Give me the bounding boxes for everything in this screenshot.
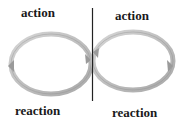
label-action-left: action: [21, 6, 55, 19]
action-reaction-diagram: action action reaction reaction: [0, 0, 188, 124]
label-reaction-right: reaction: [112, 106, 157, 119]
label-reaction-left: reaction: [15, 104, 60, 117]
label-action-right: action: [115, 9, 149, 22]
left-cycle-loop: [8, 34, 91, 94]
right-cycle-loop: [93, 32, 173, 90]
